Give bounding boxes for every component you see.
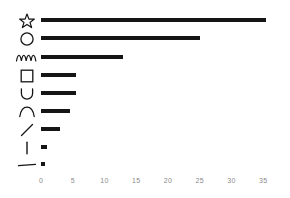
bar-vertical-line <box>41 145 47 149</box>
chart-row <box>0 121 290 139</box>
x-tick-label: 15 <box>132 177 140 184</box>
arch-icon <box>14 103 40 121</box>
x-tick-label: 10 <box>100 177 108 184</box>
diagonal-line-icon <box>14 121 40 139</box>
star-icon <box>14 12 40 30</box>
circle-icon <box>14 30 40 48</box>
x-axis: 0 5 10 15 20 25 30 35 <box>0 175 290 198</box>
chart-row <box>0 156 290 174</box>
u-curve-icon <box>14 85 40 103</box>
squiggle-icon <box>14 49 40 67</box>
bar-arch <box>41 109 70 113</box>
chart-row <box>0 49 290 67</box>
x-tick-label: 0 <box>39 177 43 184</box>
bar-square <box>41 73 76 77</box>
bar-circle <box>41 36 200 40</box>
bar-horizontal-line <box>41 162 45 166</box>
chart-row <box>0 67 290 85</box>
x-tick-label: 30 <box>227 177 235 184</box>
plot-area <box>0 0 290 175</box>
x-tick-label: 5 <box>71 177 75 184</box>
square-icon <box>14 67 40 85</box>
bar-u-curve <box>41 91 76 95</box>
bar-star <box>41 18 266 22</box>
x-tick-label: 35 <box>259 177 267 184</box>
chart-row <box>0 85 290 103</box>
bar-diagonal-line <box>41 127 60 131</box>
chart-row <box>0 30 290 48</box>
x-tick-label: 25 <box>196 177 204 184</box>
chart-row <box>0 139 290 157</box>
chart-row <box>0 103 290 121</box>
vertical-line-icon <box>14 139 40 157</box>
x-tick-label: 20 <box>164 177 172 184</box>
chart-row <box>0 12 290 30</box>
horizontal-line-icon <box>14 156 40 174</box>
bar-squiggle <box>41 55 123 59</box>
horizontal-bar-chart: 0 5 10 15 20 25 30 35 <box>0 0 290 198</box>
